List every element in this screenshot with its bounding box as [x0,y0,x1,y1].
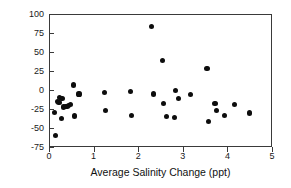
y-axis-tick-label: 75 [34,29,44,38]
y-axis-tick [49,90,54,91]
x-axis-tick-label: 0 [46,152,51,161]
data-point [161,101,166,106]
y-axis-tick-label: 50 [34,48,44,57]
data-point [57,95,62,100]
data-point [176,96,181,101]
y-axis-tick-label: -50 [31,124,44,133]
data-point [103,108,108,113]
data-point [63,104,68,109]
data-point [188,92,193,97]
x-axis-title: Average Salinity Change (ppt) [49,166,272,178]
data-point [151,91,156,96]
data-point [59,116,64,121]
data-point [160,58,165,63]
plot-area-frame [49,14,272,147]
x-axis-tick-label: 1 [91,152,96,161]
data-point [232,102,237,107]
y-axis-tick-label: -25 [31,105,44,114]
data-point [128,89,133,94]
data-point [222,113,227,118]
x-axis-tick-label: 5 [269,152,274,161]
y-axis-tick-label: -75 [31,143,44,152]
data-point [55,99,60,104]
scatter-chart-figure: -75-50-250255075100012345 Average Salini… [0,0,291,188]
data-point [76,91,81,96]
x-axis-tick-label: 3 [180,152,185,161]
data-point [149,24,154,29]
data-point [212,101,217,106]
x-axis-tick-label: 2 [136,152,141,161]
y-axis-tick [49,14,54,15]
data-point [52,110,57,115]
data-point [247,110,252,115]
y-axis-tick-label: 100 [29,10,44,19]
data-point [172,115,177,120]
data-point [53,133,58,138]
y-axis-tick [49,71,54,72]
data-point [214,108,219,113]
data-point [56,100,61,105]
data-point [129,113,134,118]
data-point [66,103,71,108]
y-axis-tick-label: 25 [34,67,44,76]
data-point [72,113,77,118]
y-axis-tick [49,109,54,110]
data-point [164,114,169,119]
data-point [59,96,64,101]
data-point [68,102,73,107]
y-axis-tick-label: 0 [39,86,44,95]
data-point [102,90,107,95]
data-point [71,82,76,87]
data-points-layer [50,15,271,146]
data-point [204,66,209,71]
y-axis-tick [49,33,54,34]
data-point [61,104,66,109]
data-point [206,119,211,124]
data-point [64,104,69,109]
y-axis-tick [49,52,54,53]
x-axis-tick-label: 4 [225,152,230,161]
data-point [173,88,178,93]
y-axis-tick [49,128,54,129]
